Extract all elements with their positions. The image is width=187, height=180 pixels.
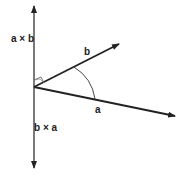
label-vector-b: b bbox=[84, 46, 90, 57]
cross-product-diagram bbox=[0, 0, 187, 180]
vector-a bbox=[34, 87, 175, 116]
label-vector-a: a bbox=[95, 104, 101, 115]
label-b-cross-a: b × a bbox=[34, 122, 57, 133]
vector-b bbox=[34, 44, 119, 87]
angle-arc bbox=[74, 67, 95, 99]
label-a-cross-b: a × b bbox=[11, 33, 34, 44]
